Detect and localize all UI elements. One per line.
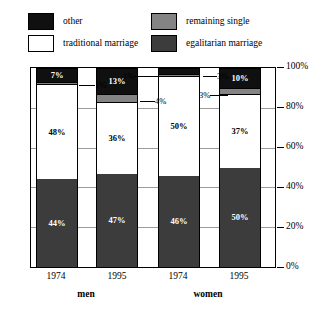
chart-plot-area: 44% 48% 1% 7% 47% 36% 4% 13% [30,67,276,268]
x-axis-group-women: women [163,290,253,300]
callout-value: 4% [155,96,166,106]
legend-item-egalitarian-marriage: egalitarian marriage [151,34,262,53]
segment-value: 50% [232,213,249,222]
leader-line [134,76,160,77]
segment-value: 10% [232,74,249,83]
segment-value: 48% [49,128,66,137]
x-axis-label-men-1995: 1995 [93,272,141,282]
segment-value: 44% [49,219,66,228]
legend-label-traditional-marriage: traditional marriage [63,39,138,49]
callout-men-1974-remaining-single: 1% [79,80,106,89]
leader-line [140,101,155,102]
callout-value: 3% [199,90,210,100]
y-tick-60 [277,147,284,148]
legend-label-egalitarian-marriage: egalitarian marriage [186,39,262,49]
callout-women-1995-remaining-single: 3% [199,90,228,99]
segment-remaining-single: 1% [37,82,77,84]
y-tick-20 [277,227,284,228]
chart-legend: other remaining single traditional marri… [28,12,296,56]
legend-item-remaining-single: remaining single [151,12,250,31]
leader-line [203,76,217,77]
segment-egalitarian-marriage: 46% [159,176,199,268]
legend-item-other: other [28,12,83,31]
segment-egalitarian-marriage: 47% [97,174,137,268]
legend-swatch-remaining-single [151,13,177,30]
y-axis-label-60: 60% [286,142,303,152]
segment-traditional-marriage: 37% [220,94,260,168]
segment-traditional-marriage: 50% [159,76,199,176]
x-axis-group-men: men [41,290,131,300]
legend-item-traditional-marriage: traditional marriage [28,34,138,53]
legend-swatch-other [28,13,54,30]
callout-value: 1% [123,71,134,81]
legend-swatch-traditional-marriage [28,35,54,52]
segment-value: 37% [232,127,249,136]
segment-remaining-single: 4% [97,94,137,102]
callout-women-1974-other: 1% [123,71,160,80]
x-axis-label-women-1995: 1995 [215,272,263,282]
callout-women-1974-other-right: 3% [203,71,228,80]
segment-value: 46% [171,217,188,226]
callout-value: 3% [217,71,228,81]
bar-men-1974[interactable]: 44% 48% 1% 7% [36,68,78,267]
y-tick-100 [277,67,284,68]
segment-traditional-marriage: 48% [37,84,77,180]
segment-other: 3% [159,68,199,74]
leader-line [210,95,228,96]
segment-other: 7% [37,68,77,82]
legend-swatch-egalitarian-marriage [151,35,177,52]
y-axis-label-80: 80% [286,102,303,112]
segment-value: 50% [171,122,188,131]
leader-line [79,85,95,86]
y-tick-0 [277,267,284,268]
segment-value: 47% [109,216,126,225]
segment-value: 36% [109,134,126,143]
legend-label-other: other [63,17,83,27]
x-axis-label-women-1974: 1974 [154,272,202,282]
segment-egalitarian-marriage: 44% [37,179,77,267]
y-axis-label-20: 20% [286,222,303,232]
x-axis-label-men-1974: 1974 [32,272,80,282]
y-axis-label-100: 100% [286,62,308,72]
segment-traditional-marriage: 36% [97,102,137,174]
legend-label-remaining-single: remaining single [186,17,250,27]
y-axis-label-40: 40% [286,182,303,192]
y-tick-40 [277,187,284,188]
callout-men-1995-remaining-single: 4% [140,96,166,105]
bar-men-1995[interactable]: 47% 36% 4% 13% [96,68,138,267]
y-tick-80 [277,107,284,108]
y-axis-label-0: 0% [286,262,299,272]
segment-value: 7% [51,71,64,80]
segment-remaining-single: 3% [159,74,199,76]
callout-value: 1% [95,80,106,90]
segment-egalitarian-marriage: 50% [220,168,260,268]
